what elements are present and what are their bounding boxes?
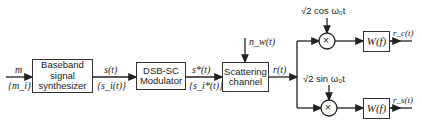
label-rc-t: r_c(t) <box>393 28 414 39</box>
filter-lower-block: W(f) <box>363 98 390 119</box>
receiver-block-diagram: × × Baseband signal synthesizer DSB-SC M… <box>0 0 422 124</box>
label-rs-t: r_s(t) <box>393 95 413 106</box>
dsb-sc-modulator-block: DSB-SC Modulator <box>136 62 186 90</box>
channel-line2: channel <box>224 77 267 88</box>
sin-text: sin ω₀t <box>316 73 345 84</box>
multiplier-upper: × <box>323 35 329 46</box>
label-sin-ref: √2 sin ω₀t <box>303 73 345 84</box>
baseband-synthesizer-block: Baseband signal synthesizer <box>32 59 93 93</box>
sqrt2-cos: √2 <box>301 5 312 16</box>
filter-upper-label: W(f) <box>367 36 387 47</box>
label-noise: n_w(t) <box>249 36 275 47</box>
label-si-t: {s_i(t)} <box>97 80 126 91</box>
label-si-star-t: {s_i*(t)} <box>189 80 223 91</box>
scattering-channel-block: Scattering channel <box>222 62 269 92</box>
label-cos-ref: √2 cos ω₀t <box>301 5 345 16</box>
label-r-t: r(t) <box>273 64 286 75</box>
filter-upper-block: W(f) <box>363 31 390 52</box>
label-s-star-t: s*(t) <box>192 64 210 75</box>
filter-lower-label: W(f) <box>367 103 387 114</box>
cos-text: cos ω₀t <box>314 5 345 16</box>
baseband-line3: synthesizer <box>38 81 86 92</box>
sqrt2-sin: √2 <box>303 73 314 84</box>
label-input-m: m <box>15 64 22 75</box>
multiplier-lower: × <box>325 102 331 113</box>
label-input-mi: {m_i} <box>8 80 31 91</box>
label-s-t: s(t) <box>104 64 117 75</box>
modulator-line2: Modulator <box>140 76 182 87</box>
